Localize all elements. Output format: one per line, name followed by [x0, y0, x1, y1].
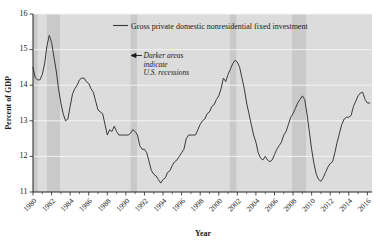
y-tick-label: 11	[20, 187, 28, 196]
chart-figure: 111213141516 198019821984198619881990199…	[0, 0, 384, 241]
legend: Gross private domestic nonresidential fi…	[113, 22, 308, 31]
x-tick-label: 1992	[133, 196, 150, 213]
x-axis-title: Year	[195, 229, 211, 238]
x-tick-label: 2016	[356, 196, 373, 213]
x-tick-label: 2010	[300, 196, 317, 213]
x-tick-label: 1980	[21, 196, 38, 213]
y-tick-label: 16	[20, 9, 28, 18]
x-tick-label: 1994	[151, 196, 168, 213]
y-tick-label: 14	[20, 80, 28, 89]
x-tick-label: 1988	[96, 196, 113, 213]
y-axis-ticks: 111213141516	[20, 9, 34, 196]
x-tick-label: 2000	[207, 196, 224, 213]
x-tick-label: 1986	[77, 196, 94, 213]
x-tick-label: 2006	[263, 196, 280, 213]
y-tick-label: 12	[20, 151, 28, 160]
x-tick-label: 1982	[40, 196, 57, 213]
recession-band	[230, 14, 237, 192]
y-axis-title: Percent of GDP	[4, 76, 13, 130]
x-tick-label: 1990	[114, 196, 131, 213]
x-tick-label: 2012	[319, 196, 336, 213]
line-chart: 111213141516 198019821984198619881990199…	[0, 0, 384, 241]
recession-band	[292, 14, 306, 192]
x-tick-label: 2002	[226, 196, 243, 213]
plot-area-background	[33, 14, 372, 192]
x-tick-label: 1996	[170, 196, 187, 213]
annot-line-3: U.S. recessions	[144, 68, 190, 77]
x-tick-label: 2004	[244, 196, 261, 213]
x-tick-label: 1998	[189, 196, 206, 213]
x-axis-ticks: 1980198219841986198819901992199419961998…	[21, 192, 373, 213]
x-tick-label: 1984	[59, 196, 76, 213]
plot-background	[33, 14, 372, 192]
x-tick-label: 2014	[337, 196, 354, 213]
recession-band	[33, 14, 38, 192]
x-tick-label: 2008	[281, 196, 298, 213]
y-tick-label: 15	[20, 44, 28, 53]
recession-band	[47, 14, 60, 192]
legend-label: Gross private domestic nonresidential fi…	[131, 22, 308, 31]
y-tick-label: 13	[20, 116, 28, 125]
recession-band	[131, 14, 138, 192]
